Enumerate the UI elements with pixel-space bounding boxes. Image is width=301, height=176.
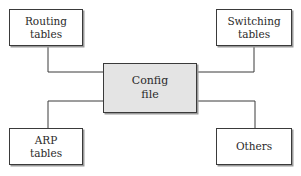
- node-label: tables: [30, 147, 62, 160]
- edge-routing-config: [48, 46, 103, 72]
- node-label: tables: [238, 28, 270, 41]
- node-label: Config: [132, 74, 169, 88]
- edge-arp-config: [48, 101, 103, 128]
- node-label: Others: [236, 140, 272, 153]
- node-config-file: Config file: [103, 63, 197, 113]
- node-routing-tables: Routing tables: [9, 9, 83, 46]
- edge-others-config: [197, 101, 255, 128]
- node-switching-tables: Switching tables: [216, 9, 292, 46]
- node-label: Switching: [227, 15, 280, 28]
- node-label: file: [141, 88, 158, 102]
- node-label: ARP: [35, 134, 58, 147]
- node-label: tables: [30, 28, 62, 41]
- node-others: Others: [216, 128, 292, 165]
- edge-switching-config: [197, 46, 254, 72]
- node-arp-tables: ARP tables: [9, 128, 83, 165]
- node-label: Routing: [25, 15, 67, 28]
